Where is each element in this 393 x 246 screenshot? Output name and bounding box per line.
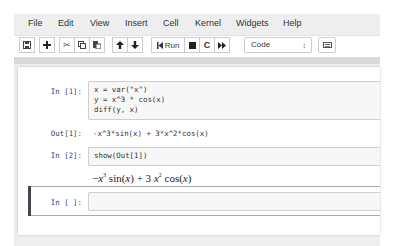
move-up-button[interactable] xyxy=(112,37,128,53)
paste-icon xyxy=(93,41,101,49)
toolbar: ✂ Run C Code ↕ xyxy=(14,37,380,54)
cut-button[interactable]: ✂ xyxy=(59,37,75,53)
code-line: x = var("x") xyxy=(89,82,380,95)
cell-2-input-prompt: In [2]: xyxy=(14,151,82,160)
arrow-up-icon xyxy=(116,41,124,49)
command-palette-button[interactable] xyxy=(318,37,336,53)
cell-1-code-input[interactable]: x = var("x") y = x^3 * cos(x) diff(y, x) xyxy=(88,81,380,120)
arrow-down-icon xyxy=(131,41,139,49)
fast-forward-icon xyxy=(218,42,226,49)
copy-icon xyxy=(78,41,86,49)
menubar: File Edit View Insert Cell Kernel Widget… xyxy=(14,14,380,36)
run-label: Run xyxy=(165,41,180,50)
interrupt-button[interactable] xyxy=(184,37,200,53)
math-part: ) + 3 xyxy=(130,172,154,184)
toolbar-group-save xyxy=(19,37,34,53)
menu-kernel[interactable]: Kernel xyxy=(195,18,221,28)
cell-3-code-input[interactable] xyxy=(88,192,380,211)
code-line: diff(y, x) xyxy=(89,105,380,115)
toolbar-group-insert xyxy=(39,37,54,53)
cell-3-input-prompt: In [ ]: xyxy=(14,198,82,207)
code-line: y = x^3 * cos(x) xyxy=(89,95,380,105)
plus-icon xyxy=(43,41,51,49)
cell-2-math-output: −x3 sin(x) + 3 x2 cos(x) xyxy=(92,172,191,184)
save-button[interactable] xyxy=(19,37,35,53)
keyboard-icon xyxy=(323,42,332,48)
math-part: ) xyxy=(188,172,192,184)
move-down-button[interactable] xyxy=(127,37,143,53)
cell-1-output-text: -x^3*sin(x) + 3*x^2*cos(x) xyxy=(93,129,209,138)
math-part: sin( xyxy=(106,172,125,184)
cell-1-output-prompt: Out[1]: xyxy=(14,129,82,138)
header-divider xyxy=(14,57,380,64)
copy-button[interactable] xyxy=(74,37,90,53)
stop-icon xyxy=(189,42,196,49)
menu-file[interactable]: File xyxy=(28,18,43,28)
restart-run-all-button[interactable] xyxy=(214,37,230,53)
step-forward-icon xyxy=(157,42,163,49)
select-arrows-icon: ↕ xyxy=(303,39,307,53)
cell-1-input-prompt: In [1]: xyxy=(14,87,82,96)
cell-2-code-input[interactable]: show(Out[1]) xyxy=(88,147,380,166)
toolbar-group-run: Run C xyxy=(151,37,229,53)
menu-widgets[interactable]: Widgets xyxy=(236,18,269,28)
restart-button[interactable]: C xyxy=(199,37,215,53)
toolbar-group-edit: ✂ xyxy=(59,37,104,53)
menu-view[interactable]: View xyxy=(90,18,109,28)
insert-cell-below-button[interactable] xyxy=(39,37,55,53)
code-line: show(Out[1]) xyxy=(89,148,380,161)
math-part: cos( xyxy=(162,172,183,184)
menu-insert[interactable]: Insert xyxy=(125,18,148,28)
code-line xyxy=(89,193,380,196)
cell-type-value: Code xyxy=(251,40,270,49)
paste-button[interactable] xyxy=(89,37,105,53)
run-button[interactable]: Run xyxy=(151,37,185,53)
menu-edit[interactable]: Edit xyxy=(58,18,74,28)
floppy-disk-icon xyxy=(23,41,31,49)
cell-type-select[interactable]: Code ↕ xyxy=(244,37,312,53)
refresh-icon: C xyxy=(204,40,211,50)
toolbar-group-move xyxy=(112,37,142,53)
menu-help[interactable]: Help xyxy=(283,18,302,28)
menu-cell[interactable]: Cell xyxy=(163,18,179,28)
scissors-icon: ✂ xyxy=(63,40,71,50)
